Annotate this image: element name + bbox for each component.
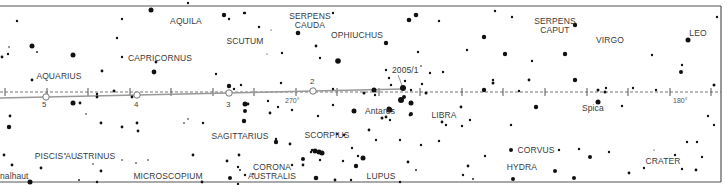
- star-icon: [71, 53, 76, 58]
- star-icon: [131, 96, 134, 99]
- star-icon: [242, 119, 246, 123]
- star-icon: [152, 70, 157, 75]
- star-icon: [511, 16, 513, 18]
- star-icon: [357, 155, 359, 157]
- star-icon: [415, 169, 417, 171]
- ecliptic-line: [0, 88, 721, 96]
- constellation-label: MICROSCOPIUM: [133, 172, 202, 181]
- star-icon: [492, 79, 494, 81]
- star-icon: [461, 125, 463, 127]
- comet-position-marker: [310, 88, 316, 94]
- star-icon: [643, 167, 645, 169]
- star-icon: [101, 70, 104, 73]
- star-icon: [96, 96, 99, 99]
- star-icon: [438, 140, 440, 142]
- star-icon: [226, 160, 229, 163]
- star-icon: [531, 60, 533, 62]
- star-icon: [247, 103, 250, 106]
- star-icon: [332, 104, 334, 106]
- star-icon: [183, 122, 185, 124]
- star-icon: [655, 89, 657, 91]
- constellation-label: HYDRA: [507, 163, 537, 172]
- star-icon: [317, 115, 319, 117]
- ecliptic-degree-label: 270°: [285, 97, 299, 104]
- star-icon: [258, 26, 260, 28]
- star-icon: [96, 181, 98, 183]
- star-icon: [351, 147, 353, 149]
- constellation-label: SCORPIUS: [304, 131, 349, 140]
- star-icon: [363, 92, 366, 95]
- star-icon: [291, 109, 293, 111]
- star-icon: [404, 80, 406, 82]
- star-icon: [354, 164, 358, 168]
- star-icon: [222, 13, 226, 17]
- star-icon: [11, 164, 14, 167]
- star-icon: [319, 159, 321, 161]
- star-icon: [420, 144, 422, 146]
- constellation-label: LIBRA: [431, 111, 456, 120]
- star-icon: [653, 149, 654, 150]
- star-icon: [310, 151, 312, 153]
- star-icon: [509, 148, 513, 152]
- star-icon: [578, 148, 580, 150]
- star-icon: [228, 176, 232, 180]
- constellation-label: CORVUS: [518, 146, 555, 155]
- star-icon: [243, 12, 245, 14]
- star-icon: [420, 65, 422, 67]
- star-icon: [266, 53, 267, 54]
- star-icon: [713, 84, 716, 87]
- star-icon: [239, 169, 241, 171]
- star-icon: [192, 154, 195, 157]
- star-icon: [681, 168, 683, 170]
- star-icon: [460, 106, 463, 109]
- star-icon: [79, 102, 82, 105]
- star-icon: [243, 109, 247, 113]
- star-icon: [71, 101, 76, 106]
- comet-trajectory: [0, 89, 403, 98]
- star-icon: [385, 116, 388, 119]
- star-icon: [113, 90, 116, 93]
- star-icon: [302, 164, 305, 167]
- constellation-label: AQUARIUS: [36, 72, 81, 81]
- comet-position-label: 4: [134, 101, 138, 109]
- constellation-label: SAGITTARIUS: [211, 132, 268, 141]
- star-icon: [632, 87, 634, 89]
- star-icon: [374, 94, 376, 96]
- star-icon: [462, 174, 464, 176]
- star-icon: [442, 71, 444, 73]
- star-icon: [466, 49, 468, 51]
- star-icon: [301, 157, 305, 161]
- star-icon: [558, 149, 560, 151]
- star-icon: [149, 8, 154, 13]
- star-icon: [267, 100, 269, 102]
- star-icon: [553, 169, 557, 173]
- star-icon: [469, 119, 471, 121]
- star-icon: [384, 41, 388, 45]
- comet-position-marker: [226, 90, 232, 96]
- star-icon: [100, 122, 103, 125]
- star-icon: [136, 122, 139, 125]
- star-icon: [85, 113, 87, 115]
- star-icon: [135, 162, 137, 164]
- star-icon: [441, 121, 444, 124]
- star-icon: [277, 106, 279, 108]
- star-icon: [368, 129, 371, 132]
- star-icon: [467, 165, 470, 168]
- star-icon: [121, 159, 123, 161]
- star-icon: [296, 31, 301, 36]
- star-icon: [3, 154, 6, 157]
- star-icon: [289, 143, 292, 146]
- star-icon: [228, 18, 230, 20]
- star-icon: [528, 79, 531, 82]
- star-icon: [563, 52, 567, 56]
- star-icon: [421, 83, 423, 85]
- star-icon: [319, 57, 321, 59]
- star-icon: [244, 174, 246, 176]
- star-icon: [16, 20, 18, 22]
- star-icon: [679, 70, 683, 74]
- star-icon: [686, 38, 691, 43]
- star-icon: [621, 105, 623, 107]
- constellation-label: CAPRICORNUS: [128, 54, 192, 63]
- star-icon: [518, 90, 520, 92]
- star-icon: [270, 29, 271, 30]
